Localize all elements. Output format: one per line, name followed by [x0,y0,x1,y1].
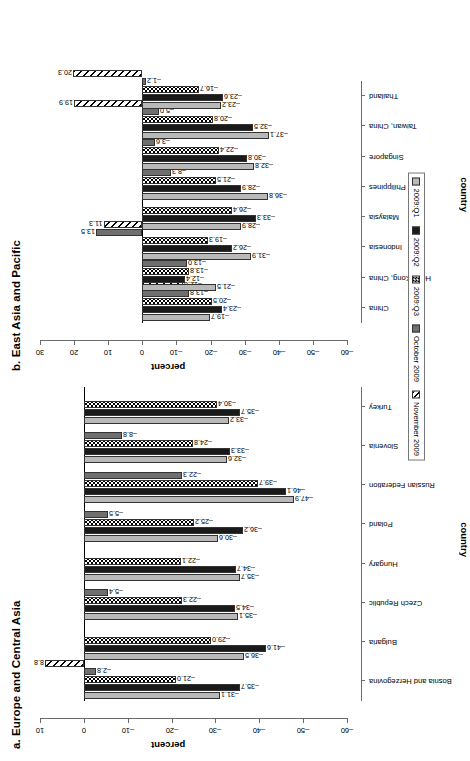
bar-value-label: –26.2 [233,244,251,253]
bar: –5.4 [84,590,108,597]
panel-europe-central-asia: a. Europe and Central Asia –31.1–35.7–21… [0,381,443,753]
bar-value-label: –36.2 [244,525,262,534]
bar-value-label: –22.3 [183,470,201,479]
category-label-cell: Malaysia [361,202,451,232]
bar: –23.2 [142,102,221,109]
bar: –35.1 [84,614,238,621]
legend-item: 2009:Q2 [412,227,421,267]
value-axis-tick-label: 10 [104,348,112,357]
category-tick [361,156,365,157]
bar-group: –30.6–36.2–25.2–5.5 [40,505,347,544]
legend-item: 2009:Q1 [412,178,421,218]
value-axis-tick [74,340,75,345]
value-axis [40,340,347,341]
bar-value-label: –35.7 [241,572,259,581]
value-axis-tick-label: –40 [253,726,266,735]
bar-value-label: –36.8 [269,191,287,200]
bar-value-label: –31.1 [221,690,239,699]
value-axis-tick [259,718,260,723]
bar-value-label: –23.6 [224,92,242,101]
category-label-cell: Hungary [361,544,451,583]
legend-label: 2009:Q1 [412,189,421,218]
category-label: Turkey [369,402,392,411]
bar: –35.7 [84,409,241,416]
value-axis-tick [172,718,173,723]
legend-item: 2009:Q3 [412,276,421,316]
bar-value-label: –29.0 [212,635,230,644]
legend-label: October 2009 [412,336,421,382]
bar: –20.5 [142,298,212,305]
category-label-cell: Taiwan, China [361,111,451,141]
legend-swatch-dark-gray-solid [413,325,421,333]
category-tick [361,277,365,278]
value-axis-tick [303,718,304,723]
bar-groups: –31.1–35.7–21.0–2.88.8–36.5–41.6–29.0–35… [40,387,347,701]
bar: –30.6 [84,535,218,542]
bar-value-label: –32.5 [254,123,272,132]
bar: –2.8 [84,668,96,675]
category-label: China [369,303,389,312]
value-axis [40,718,347,719]
category-tick [361,523,365,524]
bar-value-label: –30.4 [218,399,236,408]
legend-swatch-checkered [413,276,421,284]
value-axis-tick [347,340,348,345]
value-axis-tick-label: –30 [238,348,251,357]
bar: –5.5 [84,511,108,518]
bar-group: –35.1–34.5–22.3–5.4 [40,583,347,622]
bar: –36.2 [84,527,243,534]
category-label-cell: Poland [361,505,451,544]
value-axis-tick-label: –20 [165,726,178,735]
legend-label: 2009:Q3 [412,287,421,316]
category-label: Russian Federation [369,481,435,490]
category-tick [361,563,365,564]
value-axis-tick-label: 30 [36,348,44,357]
value-axis-tick [142,340,143,345]
bar: –22.1 [84,558,181,565]
bar-group: –31.9–26.2–19.313.511.3 [40,232,347,262]
bar: –8.8 [84,433,123,440]
bar-value-label: –5.4 [109,588,123,597]
category-tick [361,641,365,642]
bar: –31.9 [142,254,251,261]
legend-swatch-light-gray-solid [413,178,421,186]
category-labels: ChinaHong Kong, ChinaIndonesiaMalaysiaPh… [361,81,451,323]
value-axis-tick-label: 10 [36,726,44,735]
bar: –34.5 [84,606,235,613]
value-axis-tick-label: –40 [272,348,285,357]
bar: –32.8 [142,163,254,170]
legend-swatch-black-solid [413,227,421,235]
category-label-cell: Singapore [361,142,451,172]
bar: –41.6 [84,645,266,652]
value-axis-tick [245,340,246,345]
category-tick [361,680,365,681]
chart-legend: 2009:Q12009:Q22009:Q3October 2009Novembe… [408,173,425,461]
category-label-cell: Bulgaria [361,623,451,662]
bar-group: –35.7–34.7–22.1 [40,544,347,583]
category-label-cell: Indonesia [361,232,451,262]
value-axis-tick-label: –60 [341,726,354,735]
category-label-cell: Slovenia [361,426,451,465]
bar: –28.9 [142,223,241,230]
bar-value-label: –46.1 [287,486,305,495]
bar-group: –19.7–23.4–20.5–13.8–12.0 [40,293,347,323]
bar-value-label: –33.2 [230,415,248,424]
bar-value-label: –47.9 [295,494,313,503]
bar-value-label: 20.3 [58,68,72,77]
bar-group: –37.1–32.5–20.8–5.019.9 [40,111,347,141]
value-axis-tick [347,718,348,723]
category-tick [361,445,365,446]
category-axis-title: country [459,522,470,557]
category-tick [361,95,365,96]
bar-group: –21.5–12.4–13.8–13.0 [40,263,347,293]
bar: –16.7 [142,86,199,93]
bar: –19.3 [142,238,208,245]
category-labels: Bosnia and HerzegovinaBulgariaCzech Repu… [361,387,451,701]
bar-value-label: –21.5 [217,282,235,291]
bar: –28.9 [142,185,241,192]
bar-value-label: –1.2 [147,76,161,85]
category-label-cell: Hong Kong, China [361,263,451,293]
category-tick [361,125,365,126]
bar: –1.2 [142,78,146,85]
